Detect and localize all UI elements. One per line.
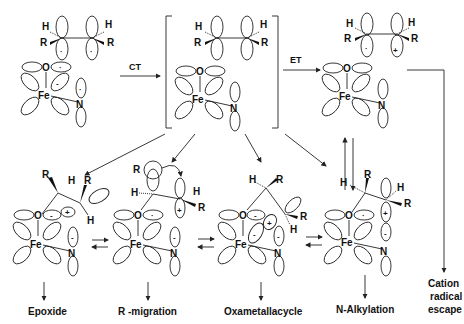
product-epoxide-label: Epoxide [28, 306, 67, 317]
atom-o: O [42, 62, 50, 73]
atom-r: R [133, 164, 141, 175]
radical-dot: · [79, 85, 82, 94]
atom-r: R [198, 202, 206, 213]
atom-o: O [134, 210, 142, 221]
atom-fe: Fe [130, 239, 142, 250]
atom-h: H [195, 21, 202, 32]
charge-minus: - [173, 233, 176, 242]
r-migration-intermediate: + R H H R · O Fe N - [110, 161, 206, 276]
atom-n: N [170, 248, 177, 259]
atom-r: R [364, 169, 372, 180]
radical-dot: · [365, 44, 368, 53]
cation-radical-complex: · + H R H R O Fe N [319, 13, 419, 128]
product-escape-label-line1: Cation [428, 278, 459, 289]
atom-r: R [42, 169, 50, 180]
atom-fe: Fe [339, 91, 351, 102]
atom-n: N [378, 100, 385, 111]
atom-r: R [411, 33, 419, 44]
atom-h: H [131, 187, 138, 198]
charge-transfer-complex: H R H R O Fe N [166, 16, 278, 131]
right-bracket [272, 16, 278, 128]
atom-h: H [249, 174, 256, 185]
radical-dot: · [60, 47, 63, 56]
atom-h: H [346, 18, 353, 29]
atom-fe: Fe [235, 239, 247, 250]
escape-arrow [407, 70, 444, 272]
product-escape-label-line3: escape [428, 304, 462, 315]
product-escape-label-line2: radical [430, 291, 462, 302]
atom-o: O [196, 66, 204, 77]
atom-h: H [42, 21, 49, 32]
n-alkylation-intermediate: R H + H R · O Fe N - [321, 169, 412, 276]
pathway-arrow-oxametallacycle [245, 134, 261, 162]
atom-o: O [239, 210, 247, 221]
left-bracket [166, 16, 172, 128]
atom-h: H [105, 19, 112, 30]
atom-r: R [194, 37, 202, 48]
atom-h: H [193, 186, 200, 197]
atom-h: H [290, 224, 297, 235]
mechanism-diagram: · · H R H R · O - Fe N · CT [0, 0, 464, 324]
atom-h: H [397, 182, 404, 193]
atom-h: H [68, 175, 75, 186]
product-rmigration-label: R -migration [118, 306, 177, 317]
atom-fe: Fe [38, 90, 50, 101]
product-nalkylation-label: N-Alkylation [336, 304, 394, 315]
radical-dot: · [362, 211, 365, 220]
atom-r: R [300, 211, 308, 222]
atom-n: N [68, 248, 75, 259]
charge-minus: - [277, 232, 280, 241]
atom-r: R [276, 174, 284, 185]
charge-minus: - [56, 79, 59, 88]
reactant-alkene: · · H R H R [40, 16, 115, 60]
atom-o: O [34, 210, 42, 221]
charge-minus: - [71, 233, 74, 242]
atom-o: O [345, 210, 353, 221]
atom-fe: Fe [341, 237, 353, 248]
epoxide-intermediate: R H R H - + O Fe N - [10, 169, 112, 276]
atom-n: N [230, 103, 237, 114]
atom-r: R [344, 33, 352, 44]
charge-minus: - [50, 211, 53, 220]
atom-r: R [107, 37, 115, 48]
atom-r: R [40, 37, 48, 48]
charge-plus: + [267, 219, 272, 228]
atom-r: R [84, 175, 92, 186]
charge-minus: - [254, 211, 257, 220]
charge-plus: + [65, 208, 70, 217]
oxametallacycle-intermediate: H R R H - O + - Fe N - [215, 174, 308, 276]
et-label: ET [290, 55, 302, 65]
radical-dot: · [90, 47, 93, 56]
atom-r: R [404, 198, 412, 209]
iron-oxo-complex: · O - Fe N · [18, 62, 86, 127]
atom-h: H [260, 19, 267, 30]
atom-h: H [87, 215, 94, 226]
atom-o: O [343, 63, 351, 74]
atom-h: H [408, 17, 415, 28]
product-oxametallacycle-label: Oxametallacycle [224, 306, 303, 317]
charge-minus: - [253, 230, 256, 239]
atom-fe: Fe [30, 239, 42, 250]
charge-plus: + [393, 46, 398, 55]
charge-plus: + [177, 206, 182, 215]
pathway-arrow-nalkylation [285, 134, 326, 166]
atom-n: N [274, 248, 281, 259]
charge-minus: - [384, 229, 387, 238]
atom-r: R [261, 37, 269, 48]
ct-label: CT [129, 62, 141, 72]
atom-n: N [380, 246, 387, 257]
charge-plus: + [383, 209, 388, 218]
atom-h: H [340, 177, 347, 188]
pathway-arrow-rmigration [172, 134, 195, 162]
radical-dot: · [151, 211, 154, 220]
atom-n: N [76, 99, 83, 110]
atom-fe: Fe [192, 94, 204, 105]
radical-dot: · [59, 63, 62, 72]
